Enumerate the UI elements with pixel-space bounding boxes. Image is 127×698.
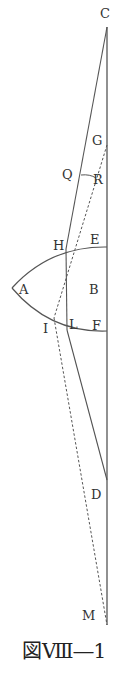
label-g: G [92,133,102,148]
label-c: C [100,6,110,21]
label-h: H [53,238,64,253]
label-d: D [91,487,101,502]
label-i: I [43,321,48,336]
label-e: E [90,232,100,247]
line-hl [66,249,67,330]
label-l: L [69,317,78,332]
label-q: Q [62,167,73,182]
label-f: F [92,318,101,333]
geometry-diagram: C G Q R H E A B I L F D M 図Ⅷ―1 [0,0,127,698]
label-b: B [89,282,99,297]
figure-caption: 図Ⅷ―1 [22,639,106,663]
label-a: A [18,282,29,297]
line-ld [67,330,107,480]
label-r: R [93,172,104,187]
dashed-line-im [54,318,107,625]
label-m: M [82,608,95,623]
